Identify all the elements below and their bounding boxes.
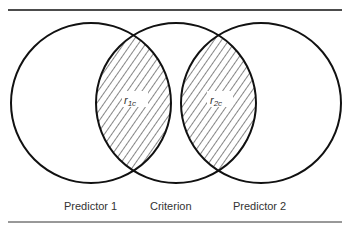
label-predictor-1: Predictor 1: [64, 200, 117, 212]
label-predictor-2: Predictor 2: [233, 200, 286, 212]
label-criterion: Criterion: [150, 200, 192, 212]
venn-diagram: r1c r2c: [0, 0, 351, 233]
